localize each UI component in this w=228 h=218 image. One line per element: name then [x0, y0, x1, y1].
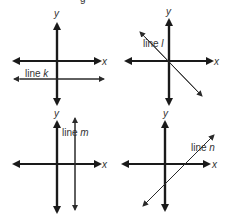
y-axis-label: y: [53, 108, 60, 119]
panel-line-n: y x line n: [123, 108, 218, 210]
panel-line-m: y x line m: [14, 108, 108, 212]
line-label: line n: [191, 142, 215, 153]
four-coordinate-planes-figure: g y x line k y x line l y x line m: [0, 0, 228, 218]
x-axis-label: x: [211, 159, 218, 170]
x-axis-label: x: [213, 56, 220, 67]
x-axis-label: x: [101, 159, 108, 170]
line-label: line l: [143, 38, 164, 49]
x-axis-label: x: [101, 56, 108, 67]
panel-line-l: y x line l: [126, 6, 220, 104]
panel-line-k: y x line k: [14, 8, 108, 104]
line-label: line k: [25, 68, 49, 79]
y-axis-label: y: [53, 8, 60, 19]
y-axis-label: y: [162, 108, 169, 119]
line-label: line m: [62, 127, 89, 138]
title-fragment: g: [80, 0, 86, 4]
y-axis-label: y: [165, 6, 172, 17]
